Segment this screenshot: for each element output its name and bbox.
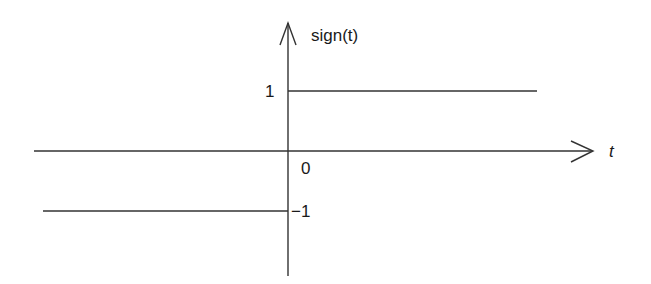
x-axis-label: t bbox=[609, 142, 615, 161]
origin-label: 0 bbox=[301, 159, 310, 178]
y-axis-label: sign(t) bbox=[311, 26, 358, 45]
tick-label-positive: 1 bbox=[265, 82, 274, 101]
signum-diagram: sign(t) t 1 0 −1 bbox=[0, 0, 651, 284]
tick-label-negative: −1 bbox=[291, 202, 310, 221]
